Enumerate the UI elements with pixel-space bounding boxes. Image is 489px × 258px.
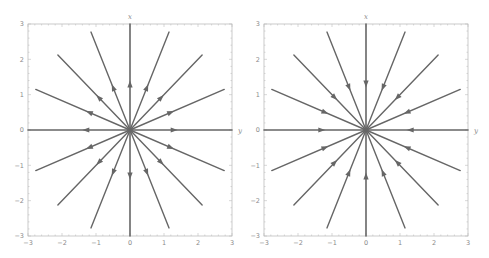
arrowhead-icon	[127, 172, 132, 179]
x-tick-label: 2	[196, 239, 200, 247]
x-tick-label: 1	[398, 239, 402, 247]
x-tick-label: −1	[91, 239, 101, 247]
phase-portrait-right: −3−2−101233210−1−2−3xy	[250, 13, 479, 247]
y-tick-label: −2	[14, 197, 24, 205]
trajectory-line	[366, 55, 438, 130]
arrowhead-icon	[82, 127, 89, 132]
y-tick-label: 2	[256, 56, 260, 64]
arrowhead-icon	[345, 83, 350, 90]
y-tick-label: −3	[14, 232, 24, 240]
x-tick-label: −2	[57, 239, 67, 247]
arrowhead-icon	[404, 146, 411, 151]
arrowhead-icon	[404, 109, 411, 114]
arrowhead-icon	[86, 111, 93, 116]
y-tick-label: 2	[20, 56, 24, 64]
phase-portrait-figure: −3−2−101233210−1−2−3xy−3−2−101233210−1−2…	[0, 0, 489, 258]
arrowhead-icon	[363, 81, 368, 88]
y-tick-label: 3	[20, 20, 24, 28]
horizontal-axis-label: y	[237, 127, 243, 135]
arrowhead-icon	[143, 84, 148, 91]
y-tick-label: 0	[256, 126, 260, 134]
y-tick-label: 1	[256, 91, 260, 99]
trajectory-line	[366, 130, 438, 205]
trajectory-line	[58, 130, 130, 205]
arrowhead-icon	[321, 146, 328, 151]
arrowhead-icon	[382, 83, 387, 90]
trajectory-line	[58, 55, 130, 130]
y-tick-label: 3	[256, 20, 260, 28]
x-tick-label: −3	[23, 239, 33, 247]
arrowhead-icon	[112, 168, 117, 175]
y-tick-label: −2	[250, 197, 260, 205]
x-tick-label: 0	[364, 239, 368, 247]
trajectory-line	[294, 55, 366, 130]
arrowhead-icon	[171, 127, 178, 132]
y-tick-label: −3	[250, 232, 260, 240]
arrowhead-icon	[86, 144, 93, 149]
arrowhead-icon	[143, 168, 148, 175]
arrowhead-icon	[345, 169, 350, 176]
y-tick-label: −1	[250, 162, 260, 170]
arrowhead-icon	[363, 172, 368, 179]
equilibrium-point	[363, 127, 368, 132]
y-tick-label: 1	[20, 91, 24, 99]
trajectory-line	[130, 55, 202, 130]
arrowhead-icon	[321, 109, 328, 114]
x-tick-label: 3	[466, 239, 470, 247]
arrowhead-icon	[318, 127, 325, 132]
arrowhead-icon	[407, 127, 414, 132]
x-tick-label: 2	[432, 239, 436, 247]
arrowhead-icon	[167, 144, 174, 149]
arrowhead-icon	[127, 81, 132, 88]
x-tick-label: −3	[259, 239, 269, 247]
x-tick-label: −1	[327, 239, 337, 247]
vertical-axis-label: x	[364, 13, 368, 21]
x-tick-label: −2	[293, 239, 303, 247]
vertical-axis-label: x	[128, 13, 132, 21]
arrowhead-icon	[382, 169, 387, 176]
phase-portrait-left: −3−2−101233210−1−2−3xy	[14, 13, 243, 247]
horizontal-axis-label: y	[473, 127, 479, 135]
y-tick-label: −1	[14, 162, 24, 170]
trajectory-line	[294, 130, 366, 205]
equilibrium-point	[127, 127, 132, 132]
trajectory-line	[130, 130, 202, 205]
arrowhead-icon	[112, 84, 117, 91]
x-tick-label: 1	[162, 239, 166, 247]
x-tick-label: 3	[230, 239, 234, 247]
y-tick-label: 0	[20, 126, 24, 134]
x-tick-label: 0	[128, 239, 132, 247]
arrowhead-icon	[167, 111, 174, 116]
